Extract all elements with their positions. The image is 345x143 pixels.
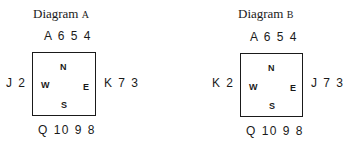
west-hand: K 2: [212, 76, 235, 90]
title-word: Diagram: [33, 6, 78, 21]
seat-east: E: [83, 82, 89, 92]
seat-south: S: [61, 100, 67, 110]
diagram-a: Diagram A A 6 5 4 N W E S J 2 K 7 3 Q 10…: [0, 0, 170, 143]
title-letter: A: [82, 9, 90, 20]
north-hand: A 6 5 4: [44, 29, 92, 43]
north-hand: A 6 5 4: [250, 30, 298, 44]
diagram-title: Diagram B: [238, 6, 294, 22]
seat-north: N: [60, 62, 67, 72]
compass-box: N W E S: [32, 52, 96, 116]
seat-south: S: [269, 101, 275, 111]
east-hand: K 7 3: [104, 76, 140, 90]
seat-east: E: [290, 83, 296, 93]
compass-box: N W E S: [240, 53, 303, 117]
diagram-title: Diagram A: [33, 6, 89, 22]
title-letter: B: [287, 9, 294, 20]
seat-west: W: [41, 80, 50, 90]
east-hand: J 7 3: [311, 76, 345, 90]
diagram-b: Diagram B A 6 5 4 N W E S K 2 J 7 3 Q 10…: [170, 0, 340, 143]
seat-north: N: [268, 63, 275, 73]
south-hand: Q 10 9 8: [38, 123, 96, 137]
west-hand: J 2: [6, 76, 27, 90]
title-word: Diagram: [238, 6, 283, 21]
seat-west: W: [249, 82, 258, 92]
south-hand: Q 10 9 8: [246, 124, 304, 138]
